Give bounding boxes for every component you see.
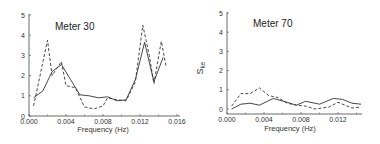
y-tick-label: 4 [219,29,223,36]
series-solid-line [34,42,164,101]
y-axis-title: Ske [195,61,206,74]
x-tick-label: 0.000 [218,116,236,123]
y-tick-label: 2 [21,72,25,79]
x-tick-label: 0.008 [94,118,112,125]
y-axis-title-sub: ke [199,61,206,68]
x-tick-label: 0.016 [168,118,186,125]
svg-text:Ske: Ske [195,61,206,74]
chart-panel-meter-30: 0123450.0000.0040.0080.0120.016 Meter 30… [20,12,186,135]
x-axis-title: Frequency (Hz) [77,125,129,134]
x-tick-label: 0.012 [131,118,149,125]
x-tick-label: 0.004 [255,116,273,123]
x-tick-label: 0.000 [20,118,38,125]
panel-title: Meter 30 [55,21,95,32]
x-tick-label: 0.012 [329,116,347,123]
y-tick-label: 5 [219,10,223,17]
panel-title: Meter 70 [253,18,293,29]
y-tick-label: 1 [219,86,223,93]
series-solid-line [232,98,362,109]
y-tick-label: 4 [21,32,25,39]
data-lines [34,25,166,109]
x-axis-title: Frequency (Hz) [264,124,316,133]
x-tick-label: 0.004 [57,118,75,125]
y-tick-label: 1 [21,92,25,99]
chart-figure: 0123450.0000.0040.0080.0120.016 Meter 30… [0,0,380,144]
x-tick-label: 0.008 [292,116,310,123]
y-tick-label: 3 [21,52,25,59]
y-tick-label: 5 [21,12,25,19]
data-lines [232,88,362,109]
chart-panel-meter-70: 0123450.0000.0040.0080.012 Meter 70 Freq… [195,10,362,134]
axes: 0123450.0000.0040.0080.0120.016 [20,12,186,126]
series-dashed-line [34,25,166,109]
series-dashed-line [232,88,362,109]
y-tick-label: 3 [219,48,223,55]
y-tick-label: 2 [219,67,223,74]
y-tick-label: 0 [219,106,223,113]
